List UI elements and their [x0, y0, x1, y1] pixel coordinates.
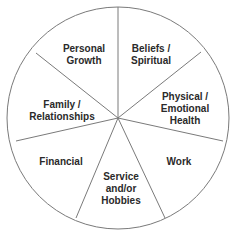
segment-label-family-relationships: Family / Relationships: [29, 99, 95, 123]
segment-label-financial: Financial: [39, 156, 82, 168]
segment-label-service-hobbies: Service and/or Hobbies: [101, 171, 140, 207]
segment-label-beliefs-spiritual: Beliefs / Spiritual: [131, 43, 171, 67]
segment-label-work: Work: [167, 156, 192, 168]
segment-label-physical-emotional-health: Physical / Emotional Health: [161, 91, 209, 127]
segment-label-personal-growth: Personal Growth: [63, 43, 105, 67]
